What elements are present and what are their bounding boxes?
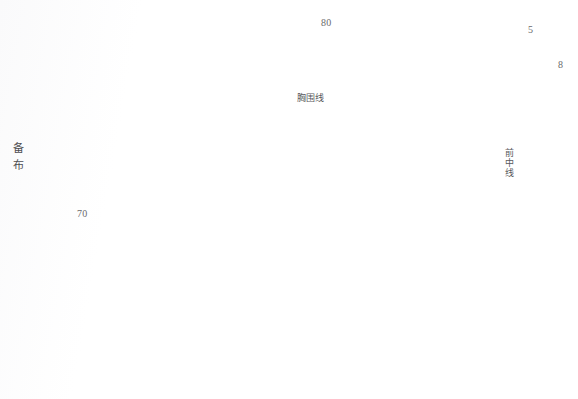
- width-leader-right: [403, 20, 521, 49]
- height-leader-upper: [89, 49, 119, 190]
- page-bottom-baseline-rule-2: [0, 384, 578, 386]
- dimension-label-width: 80: [321, 18, 331, 29]
- width-leader-left: [119, 21, 275, 49]
- height-leader-lower: [84, 236, 119, 374]
- corner-detail-edge-d: [534, 34, 545, 50]
- pattern-drawing-page: 第二节 衣身原型的结构制图: [0, 0, 578, 399]
- bust-line-label: 胸围线: [297, 94, 325, 103]
- sidebar-label-char-2: 布: [8, 157, 28, 174]
- front-center-line-label: 前中线: [504, 148, 513, 178]
- dimension-label-height: 70: [77, 209, 87, 220]
- dimension-label-corner-side: 8: [558, 60, 563, 71]
- page-bottom-baseline-rule: [0, 381, 578, 383]
- dimension-label-corner-top: 5: [528, 25, 533, 36]
- corner-detail-edge-c: [520, 34, 529, 48]
- pattern-drawing-canvas: [0, 0, 578, 399]
- corner-detail-edge-b: [566, 72, 578, 86]
- sidebar-label-spare-fabric: 备 布: [8, 140, 28, 174]
- sidebar-label-char-1: 备: [8, 140, 28, 157]
- block-top-edge: [119, 48, 543, 50]
